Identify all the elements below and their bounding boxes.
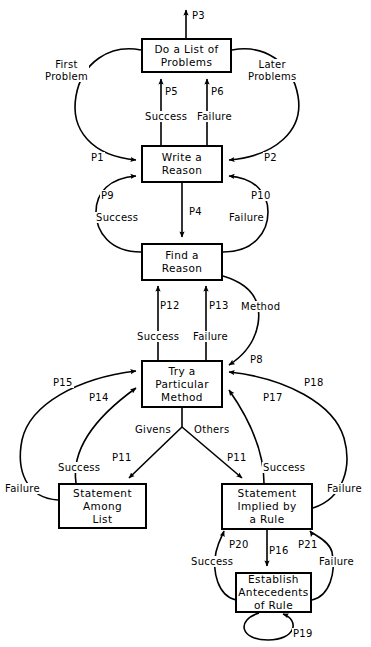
node-line: Do a List of [154,43,218,56]
label-failure-p21: Failure [318,556,355,567]
label-success-p9: Success [95,212,139,223]
label-p6: P6 [210,86,225,97]
label-line: Later [248,59,297,71]
label-p21: P21 [297,539,319,550]
label-success-p17: Success [262,462,306,473]
node-line: Problems [161,56,213,69]
label-p20: P20 [228,539,250,550]
node-line: Try a [168,365,195,378]
node-try-a-particular-method[interactable]: Try a Particular Method [141,360,223,408]
label-line: Problems [248,71,297,83]
node-line: List [93,513,113,526]
node-line: a Rule [249,513,284,526]
node-do-a-list-of-problems[interactable]: Do a List of Problems [141,38,232,73]
label-success-p12: Success [136,331,180,342]
label-failure-p15: Failure [4,483,41,494]
edge-p15-failure [20,371,136,500]
edge-method-p8 [223,276,259,365]
node-line: Write a [162,151,202,164]
node-line: Statement [238,487,297,500]
node-write-a-reason[interactable]: Write a Reason [141,145,223,183]
label-line: Problem [45,71,88,83]
node-line: Establish [248,573,299,586]
label-p11-right: P11 [226,452,248,463]
node-line: Find a [165,249,199,262]
label-first-problem: First Problem [44,59,89,82]
node-statement-among-list[interactable]: Statement Among List [58,483,147,529]
label-p4: P4 [188,206,203,217]
edge-givens-p11 [129,408,182,478]
label-failure-p18: Failure [326,483,363,494]
node-find-a-reason[interactable]: Find a Reason [141,243,223,281]
node-establish-antecedents-of-rule[interactable]: Establish Antecedents of Rule [235,572,312,613]
label-p10: P10 [250,190,272,201]
label-p5: P5 [164,86,179,97]
node-line: Statement [73,487,132,500]
node-line: Method [161,391,203,404]
label-later-problems: Later Problems [247,59,298,82]
label-failure-p10: Failure [228,212,265,223]
label-p12: P12 [159,300,181,311]
node-line: Antecedents [238,586,308,599]
label-success-p14: Success [57,462,101,473]
label-p17: P17 [262,392,284,403]
label-p19: P19 [292,628,314,639]
node-line: Particular [155,378,209,391]
edge-p19-self-loop [244,613,293,640]
node-line: Reason [162,262,203,275]
label-p14: P14 [88,392,110,403]
label-p2: P2 [263,152,278,163]
label-method: Method [240,301,281,312]
label-p8: P8 [249,354,264,365]
node-line: Among [83,500,122,513]
node-line: Implied by [237,500,296,513]
label-success-p20: Success [190,556,234,567]
label-failure-p6: Failure [196,111,233,122]
label-failure-p13: Failure [192,331,229,342]
label-line: First [45,59,88,71]
edge-p17-success [229,390,264,483]
label-p16: P16 [268,545,290,556]
label-p11-left: P11 [111,452,133,463]
flowchart-figure: Do a List of Problems Write a Reason Fin… [0,0,371,647]
node-statement-implied-by-a-rule[interactable]: Statement Implied by a Rule [221,483,313,530]
label-others: Others [193,424,230,435]
label-success-p5: Success [144,111,188,122]
label-p1: P1 [90,152,105,163]
label-p18: P18 [303,377,325,388]
label-p3: P3 [191,10,206,21]
label-p15: P15 [52,377,74,388]
node-line: of Rule [254,599,293,612]
node-line: Reason [162,164,203,177]
label-p9: P9 [100,190,115,201]
label-givens: Givens [134,424,172,435]
label-p13: P13 [208,300,230,311]
